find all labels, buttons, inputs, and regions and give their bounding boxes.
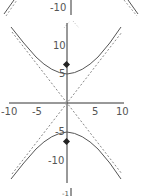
asymptote-right [124,0,137,16]
focus-upper [63,61,70,68]
y-tick-label: -5 [55,126,65,137]
y-tick-label: 5 [59,68,65,79]
tick-label: -1 [62,190,69,196]
next-plot: -1 [62,188,71,196]
tick-label: -10 [50,2,66,13]
y-tick-label: 10 [53,40,66,51]
x-tick-label: -10 [1,106,17,117]
asymptote-left [6,0,17,16]
x-tick-label: 5 [92,106,98,117]
x-tick-label: 10 [116,106,129,117]
asymptote-center [64,21,79,28]
focus-lower [63,138,70,145]
y-tick-label: -10 [48,155,64,166]
x-tick-label: -5 [32,106,42,117]
hyperbola-plots: -10 -10 -5 5 10 10 5 -5 -10 -1 [0,0,142,196]
previous-plot: -10 [4,0,138,28]
main-plot: -10 -5 5 10 10 5 -5 -10 [1,23,129,183]
